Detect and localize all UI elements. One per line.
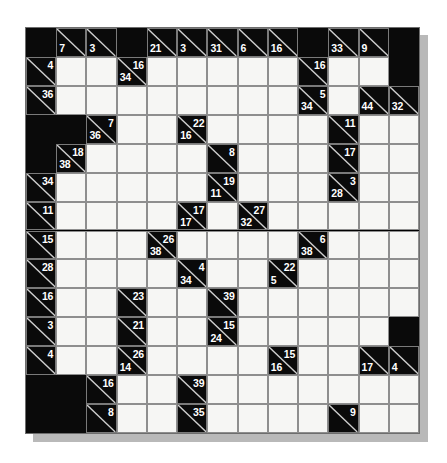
entry-cell[interactable] [238, 173, 268, 202]
entry-cell[interactable] [359, 375, 389, 404]
entry-cell[interactable] [328, 346, 358, 375]
entry-cell[interactable] [298, 346, 328, 375]
entry-cell[interactable] [359, 259, 389, 288]
entry-cell[interactable] [389, 404, 419, 433]
entry-cell[interactable] [268, 57, 298, 86]
entry-cell[interactable] [86, 57, 116, 86]
entry-cell[interactable] [177, 317, 207, 346]
entry-cell[interactable] [117, 404, 147, 433]
entry-cell[interactable] [207, 404, 237, 433]
entry-cell[interactable] [147, 346, 177, 375]
entry-cell[interactable] [389, 375, 419, 404]
entry-cell[interactable] [389, 173, 419, 202]
entry-cell[interactable] [298, 317, 328, 346]
entry-cell[interactable] [147, 375, 177, 404]
entry-cell[interactable] [147, 173, 177, 202]
entry-cell[interactable] [56, 86, 86, 115]
entry-cell[interactable] [268, 202, 298, 231]
entry-cell[interactable] [238, 317, 268, 346]
entry-cell[interactable] [86, 317, 116, 346]
entry-cell[interactable] [117, 86, 147, 115]
entry-cell[interactable] [207, 86, 237, 115]
entry-cell[interactable] [238, 115, 268, 144]
entry-cell[interactable] [147, 115, 177, 144]
entry-cell[interactable] [389, 288, 419, 317]
entry-cell[interactable] [238, 231, 268, 260]
entry-cell[interactable] [56, 259, 86, 288]
entry-cell[interactable] [359, 144, 389, 173]
entry-cell[interactable] [86, 144, 116, 173]
entry-cell[interactable] [207, 115, 237, 144]
entry-cell[interactable] [86, 346, 116, 375]
entry-cell[interactable] [359, 57, 389, 86]
entry-cell[interactable] [177, 231, 207, 260]
entry-cell[interactable] [268, 288, 298, 317]
entry-cell[interactable] [268, 115, 298, 144]
entry-cell[interactable] [298, 115, 328, 144]
entry-cell[interactable] [298, 375, 328, 404]
entry-cell[interactable] [389, 144, 419, 173]
entry-cell[interactable] [117, 173, 147, 202]
entry-cell[interactable] [298, 288, 328, 317]
entry-cell[interactable] [298, 173, 328, 202]
entry-cell[interactable] [359, 404, 389, 433]
entry-cell[interactable] [359, 115, 389, 144]
entry-cell[interactable] [147, 202, 177, 231]
entry-cell[interactable] [147, 404, 177, 433]
entry-cell[interactable] [328, 231, 358, 260]
entry-cell[interactable] [389, 115, 419, 144]
entry-cell[interactable] [389, 259, 419, 288]
entry-cell[interactable] [207, 375, 237, 404]
entry-cell[interactable] [238, 346, 268, 375]
entry-cell[interactable] [177, 86, 207, 115]
entry-cell[interactable] [56, 231, 86, 260]
entry-cell[interactable] [328, 86, 358, 115]
entry-cell[interactable] [56, 173, 86, 202]
entry-cell[interactable] [86, 202, 116, 231]
entry-cell[interactable] [147, 288, 177, 317]
entry-cell[interactable] [268, 404, 298, 433]
entry-cell[interactable] [117, 115, 147, 144]
entry-cell[interactable] [177, 346, 207, 375]
entry-cell[interactable] [177, 173, 207, 202]
entry-cell[interactable] [207, 202, 237, 231]
kakuro-grid[interactable]: 7321331616339416341636534443273622161118… [25, 27, 420, 434]
entry-cell[interactable] [177, 144, 207, 173]
entry-cell[interactable] [207, 346, 237, 375]
entry-cell[interactable] [268, 317, 298, 346]
entry-cell[interactable] [268, 375, 298, 404]
entry-cell[interactable] [56, 317, 86, 346]
entry-cell[interactable] [328, 317, 358, 346]
entry-cell[interactable] [298, 202, 328, 231]
entry-cell[interactable] [147, 259, 177, 288]
entry-cell[interactable] [117, 231, 147, 260]
entry-cell[interactable] [359, 231, 389, 260]
entry-cell[interactable] [86, 231, 116, 260]
entry-cell[interactable] [177, 57, 207, 86]
entry-cell[interactable] [86, 86, 116, 115]
entry-cell[interactable] [86, 173, 116, 202]
entry-cell[interactable] [238, 288, 268, 317]
entry-cell[interactable] [238, 375, 268, 404]
entry-cell[interactable] [328, 57, 358, 86]
entry-cell[interactable] [359, 173, 389, 202]
entry-cell[interactable] [238, 86, 268, 115]
entry-cell[interactable] [238, 144, 268, 173]
entry-cell[interactable] [298, 404, 328, 433]
entry-cell[interactable] [117, 375, 147, 404]
entry-cell[interactable] [328, 375, 358, 404]
entry-cell[interactable] [389, 202, 419, 231]
entry-cell[interactable] [207, 231, 237, 260]
entry-cell[interactable] [298, 144, 328, 173]
entry-cell[interactable] [147, 317, 177, 346]
entry-cell[interactable] [328, 288, 358, 317]
entry-cell[interactable] [268, 231, 298, 260]
entry-cell[interactable] [207, 57, 237, 86]
entry-cell[interactable] [238, 57, 268, 86]
entry-cell[interactable] [177, 288, 207, 317]
entry-cell[interactable] [147, 86, 177, 115]
entry-cell[interactable] [328, 259, 358, 288]
entry-cell[interactable] [268, 173, 298, 202]
entry-cell[interactable] [328, 202, 358, 231]
entry-cell[interactable] [86, 288, 116, 317]
